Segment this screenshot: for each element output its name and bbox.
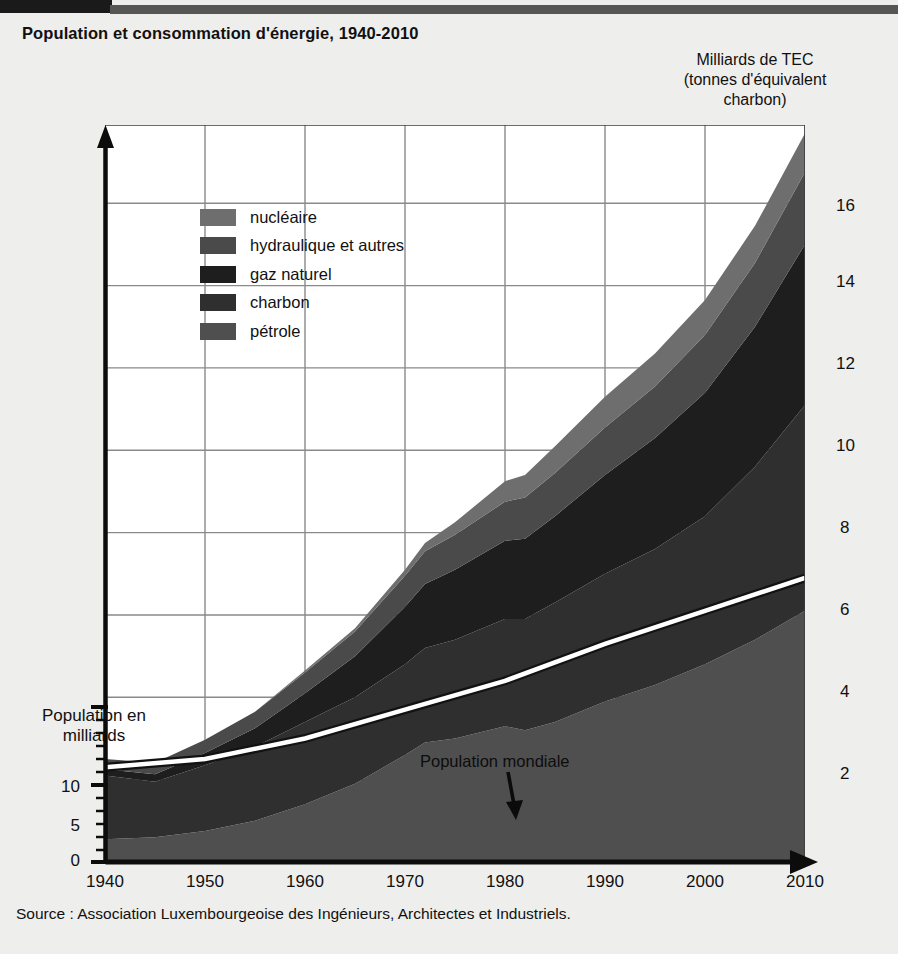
legend-label-petrole: pétrole xyxy=(250,322,300,341)
left-axis-caption: Population en milliards xyxy=(24,706,164,747)
legend-swatch-gaz-naturel xyxy=(200,266,236,283)
header-accent-block xyxy=(0,0,112,13)
population-line-annotation: Population mondiale xyxy=(420,752,570,771)
legend-label-nucleaire: nucléaire xyxy=(250,208,317,227)
legend-item-charbon[interactable]: charbon xyxy=(200,289,404,318)
legend-item-hydraulique[interactable]: hydraulique et autres xyxy=(200,232,404,261)
legend-label-charbon: charbon xyxy=(250,293,310,312)
x-tick-1980: 1980 xyxy=(470,872,540,892)
unit-caption-line-2: (tonnes d'équivalent xyxy=(630,70,880,90)
y-right-tick-10: 10 xyxy=(836,436,855,456)
x-tick-1960: 1960 xyxy=(270,872,340,892)
y-right-tick-4: 4 xyxy=(840,682,849,702)
y-right-tick-12: 12 xyxy=(836,354,855,374)
y-left-tick-10: 10 xyxy=(40,777,80,797)
y-right-tick-6: 6 xyxy=(840,600,849,620)
legend-label-hydraulique: hydraulique et autres xyxy=(250,236,404,255)
x-tick-1950: 1950 xyxy=(170,872,240,892)
left-axis-caption-line-1: Population en xyxy=(24,706,164,726)
header-accent-bar xyxy=(110,5,898,14)
x-tick-2000: 2000 xyxy=(670,872,740,892)
legend-swatch-petrole xyxy=(200,323,236,340)
legend-label-gaz-naturel: gaz naturel xyxy=(250,265,332,284)
y-right-tick-16: 16 xyxy=(836,196,855,216)
legend-item-nucleaire[interactable]: nucléaire xyxy=(200,203,404,232)
source-note: Source : Association Luxembourgeoise des… xyxy=(16,905,571,923)
y-left-tick-0: 0 xyxy=(40,851,80,871)
page-title: Population et consommation d'énergie, 19… xyxy=(22,24,418,43)
y-right-tick-2: 2 xyxy=(840,764,849,784)
y-right-tick-8: 8 xyxy=(840,518,849,538)
x-tick-1970: 1970 xyxy=(370,872,440,892)
y-left-tick-5: 5 xyxy=(40,816,80,836)
legend-item-gaz-naturel[interactable]: gaz naturel xyxy=(200,260,404,289)
legend-swatch-charbon xyxy=(200,294,236,311)
x-tick-2010: 2010 xyxy=(770,872,840,892)
unit-caption-line-1: Milliards de TEC xyxy=(630,50,880,70)
x-tick-1990: 1990 xyxy=(570,872,640,892)
y-right-tick-14: 14 xyxy=(836,272,855,292)
unit-caption-line-3: charbon) xyxy=(630,90,880,110)
legend-swatch-hydraulique xyxy=(200,237,236,254)
chart-page: Population et consommation d'énergie, 19… xyxy=(0,0,898,954)
legend-item-petrole[interactable]: pétrole xyxy=(200,317,404,346)
chart-legend: nucléaire hydraulique et autres gaz natu… xyxy=(200,203,404,346)
right-axis-unit-caption: Milliards de TEC (tonnes d'équivalent ch… xyxy=(630,50,880,110)
x-tick-1940: 1940 xyxy=(70,872,140,892)
left-axis-caption-line-2: milliards xyxy=(24,726,164,746)
legend-swatch-nucleaire xyxy=(200,209,236,226)
